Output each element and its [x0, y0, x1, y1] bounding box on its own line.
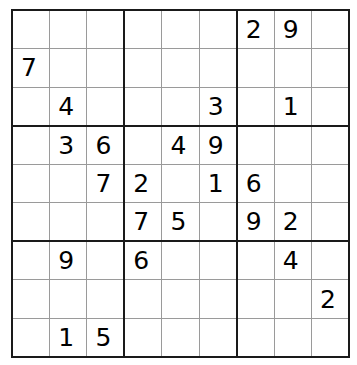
sudoku-cell-empty[interactable] [312, 164, 349, 203]
sudoku-cell-given[interactable]: 5 [162, 203, 199, 242]
sudoku-cell-empty[interactable] [12, 241, 49, 280]
sudoku-cell-empty[interactable] [312, 49, 349, 88]
sudoku-cell-empty[interactable] [237, 318, 274, 357]
sudoku-cell-empty[interactable] [49, 280, 86, 319]
sudoku-row: 15 [12, 318, 349, 357]
sudoku-cell-empty[interactable] [199, 318, 236, 357]
sudoku-cell-given[interactable]: 2 [124, 164, 161, 203]
sudoku-cell-empty[interactable] [312, 318, 349, 357]
sudoku-cell-empty[interactable] [124, 87, 161, 126]
sudoku-cell-given[interactable]: 4 [162, 126, 199, 165]
cell-digit: 4 [160, 133, 196, 158]
sudoku-cell-empty[interactable] [199, 10, 236, 49]
sudoku-cell-given[interactable]: 5 [87, 318, 124, 357]
cell-digit: 7 [85, 171, 121, 196]
sudoku-cell-given[interactable]: 9 [274, 10, 311, 49]
sudoku-row: 7592 [12, 203, 349, 242]
sudoku-cell-empty[interactable] [274, 164, 311, 203]
sudoku-cell-empty[interactable] [312, 203, 349, 242]
sudoku-cell-empty[interactable] [199, 49, 236, 88]
cell-digit: 7 [11, 55, 47, 80]
sudoku-cell-empty[interactable] [199, 241, 236, 280]
sudoku-cell-empty[interactable] [87, 241, 124, 280]
sudoku-cell-empty[interactable] [12, 126, 49, 165]
sudoku-cell-given[interactable]: 7 [87, 164, 124, 203]
sudoku-cell-given[interactable]: 2 [274, 203, 311, 242]
sudoku-cell-empty[interactable] [124, 49, 161, 88]
sudoku-cell-given[interactable]: 1 [49, 318, 86, 357]
sudoku-cell-given[interactable]: 4 [274, 241, 311, 280]
cell-digit: 2 [123, 171, 159, 196]
sudoku-row: 431 [12, 87, 349, 126]
cell-digit: 4 [48, 94, 84, 119]
sudoku-cell-empty[interactable] [87, 87, 124, 126]
sudoku-cell-given[interactable]: 9 [199, 126, 236, 165]
sudoku-cell-given[interactable]: 7 [124, 203, 161, 242]
sudoku-cell-empty[interactable] [49, 164, 86, 203]
sudoku-cell-empty[interactable] [274, 49, 311, 88]
sudoku-cell-empty[interactable] [162, 241, 199, 280]
sudoku-cell-empty[interactable] [312, 10, 349, 49]
cell-digit: 6 [236, 171, 272, 196]
sudoku-cell-empty[interactable] [124, 280, 161, 319]
sudoku-cell-given[interactable]: 9 [237, 203, 274, 242]
sudoku-cell-empty[interactable] [49, 49, 86, 88]
sudoku-cell-empty[interactable] [162, 49, 199, 88]
sudoku-cell-given[interactable]: 7 [12, 49, 49, 88]
sudoku-cell-empty[interactable] [274, 318, 311, 357]
sudoku-cell-given[interactable]: 1 [274, 87, 311, 126]
cell-digit: 4 [273, 248, 309, 273]
sudoku-cell-empty[interactable] [49, 203, 86, 242]
sudoku-cell-empty[interactable] [237, 280, 274, 319]
sudoku-cell-given[interactable]: 6 [124, 241, 161, 280]
sudoku-cell-empty[interactable] [162, 10, 199, 49]
sudoku-cell-empty[interactable] [12, 280, 49, 319]
sudoku-puzzle-container: 297431364972167592964215 [11, 9, 348, 356]
sudoku-cell-given[interactable]: 6 [237, 164, 274, 203]
sudoku-cell-given[interactable]: 9 [49, 241, 86, 280]
sudoku-cell-empty[interactable] [199, 280, 236, 319]
sudoku-cell-empty[interactable] [274, 126, 311, 165]
sudoku-cell-empty[interactable] [162, 164, 199, 203]
sudoku-cell-empty[interactable] [12, 10, 49, 49]
sudoku-cell-given[interactable]: 2 [312, 280, 349, 319]
sudoku-cell-empty[interactable] [199, 203, 236, 242]
sudoku-cell-given[interactable]: 4 [49, 87, 86, 126]
sudoku-cell-given[interactable]: 1 [199, 164, 236, 203]
sudoku-cell-empty[interactable] [162, 280, 199, 319]
sudoku-cell-given[interactable]: 6 [87, 126, 124, 165]
cell-digit: 1 [198, 171, 234, 196]
sudoku-cell-empty[interactable] [312, 87, 349, 126]
cell-digit: 3 [198, 94, 234, 119]
sudoku-cell-empty[interactable] [87, 10, 124, 49]
cell-digit: 7 [123, 209, 159, 234]
sudoku-cell-empty[interactable] [12, 318, 49, 357]
sudoku-cell-empty[interactable] [124, 318, 161, 357]
sudoku-cell-empty[interactable] [124, 126, 161, 165]
sudoku-grid[interactable]: 297431364972167592964215 [11, 9, 350, 358]
sudoku-cell-empty[interactable] [87, 49, 124, 88]
sudoku-cell-empty[interactable] [312, 126, 349, 165]
sudoku-cell-empty[interactable] [237, 126, 274, 165]
sudoku-cell-empty[interactable] [87, 280, 124, 319]
sudoku-cell-empty[interactable] [237, 49, 274, 88]
sudoku-cell-given[interactable]: 3 [199, 87, 236, 126]
sudoku-cell-empty[interactable] [12, 203, 49, 242]
sudoku-cell-empty[interactable] [162, 87, 199, 126]
sudoku-cell-empty[interactable] [162, 318, 199, 357]
sudoku-cell-empty[interactable] [12, 87, 49, 126]
cell-digit: 9 [236, 209, 272, 234]
sudoku-cell-empty[interactable] [237, 241, 274, 280]
sudoku-cell-empty[interactable] [12, 164, 49, 203]
sudoku-cell-empty[interactable] [237, 87, 274, 126]
sudoku-row: 29 [12, 10, 349, 49]
sudoku-cell-given[interactable]: 3 [49, 126, 86, 165]
sudoku-cell-empty[interactable] [274, 280, 311, 319]
sudoku-cell-given[interactable]: 2 [237, 10, 274, 49]
sudoku-cell-empty[interactable] [312, 241, 349, 280]
sudoku-cell-empty[interactable] [49, 10, 86, 49]
cell-digit: 1 [48, 325, 84, 350]
sudoku-row: 2 [12, 280, 349, 319]
sudoku-cell-empty[interactable] [124, 10, 161, 49]
sudoku-cell-empty[interactable] [87, 203, 124, 242]
